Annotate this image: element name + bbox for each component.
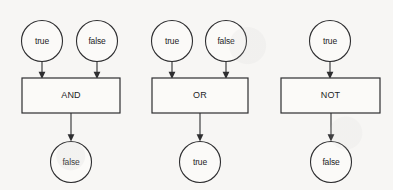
or-input-2-label: false: [217, 36, 235, 46]
not-input-1-label: true: [323, 36, 337, 46]
and-gate-group: true false AND false: [22, 21, 121, 183]
and-input-2-label: false: [88, 36, 106, 46]
not-gate-label: NOT: [321, 90, 341, 100]
or-arrow-output: [197, 134, 204, 141]
or-gate-label: OR: [193, 90, 207, 100]
logic-gate-diagram: true false AND false true false: [0, 0, 393, 190]
not-output-label: false: [322, 157, 340, 167]
and-gate-label: AND: [61, 90, 81, 100]
or-gate-group: true false OR true: [152, 21, 249, 183]
and-input-1-label: true: [35, 36, 49, 46]
or-input-1-label: true: [165, 36, 179, 46]
and-arrow-output: [68, 134, 75, 141]
or-output-label: true: [193, 157, 207, 167]
diagram-canvas: true false AND false true false: [0, 0, 393, 190]
not-arrow-output: [328, 134, 335, 141]
and-output-label: false: [62, 157, 80, 167]
not-gate-group: true NOT false: [281, 21, 380, 183]
